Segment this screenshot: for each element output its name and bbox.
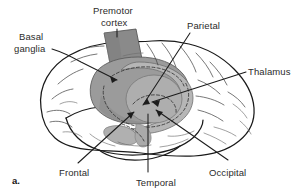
label-premotor-cortex-line2: cortex: [101, 17, 128, 28]
brain-figure: Premotor cortex Basal ganglia Parietal T…: [0, 0, 304, 194]
sulcus-16: [228, 92, 245, 107]
sulcus-14: [198, 80, 220, 94]
sulcus-17: [198, 110, 223, 121]
sulcus-2: [47, 110, 70, 114]
sulcus-4: [58, 69, 83, 84]
label-premotor-cortex-line1: Premotor: [93, 5, 133, 16]
sulcus-25: [204, 133, 226, 144]
sulcus-23: [160, 139, 188, 147]
subcortical-structures-group: [90, 29, 193, 147]
sulcus-18: [233, 104, 247, 118]
label-temporal: Temporal: [136, 177, 176, 188]
sulcus-26: [240, 121, 251, 134]
label-frontal: Frontal: [59, 167, 89, 178]
label-parietal: Parietal: [187, 20, 220, 31]
panel-label: a.: [12, 175, 20, 186]
sulcus-15: [196, 96, 224, 105]
label-basal-ganglia-line1: Basal: [19, 31, 43, 42]
label-basal-ganglia-line2: ganglia: [14, 43, 46, 54]
sulcus-5: [71, 54, 97, 62]
sulcus-8: [63, 132, 82, 137]
sulcus-12: [196, 53, 213, 77]
label-occipital: Occipital: [209, 167, 246, 178]
sulcus-11: [180, 46, 196, 72]
sulcus-7: [60, 102, 77, 104]
label-thalamus: Thalamus: [248, 66, 291, 77]
sulcus-19: [214, 127, 236, 136]
brain-illustration-svg: Premotor cortex Basal ganglia Parietal T…: [0, 0, 304, 194]
thalamus-region: [126, 75, 182, 123]
sulcus-13: [210, 62, 227, 85]
sulcus-1: [52, 89, 73, 99]
